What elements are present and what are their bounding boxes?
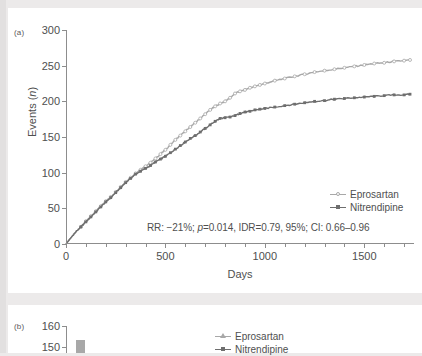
panel-b-label: (b) (14, 322, 24, 331)
x-tick-minor (86, 244, 87, 247)
y-tick-label: 160 (42, 320, 60, 332)
y-tick (62, 173, 66, 174)
panel-a-label: (a) (14, 28, 24, 37)
x-tick-major (265, 244, 266, 248)
y-tick (62, 326, 66, 327)
annotation-rr: RR: −21%; (147, 222, 195, 233)
x-tick-label: 1500 (352, 250, 376, 262)
x-tick-label: 500 (156, 250, 174, 262)
panel-a-y-axis-label: Events (n) (26, 87, 38, 137)
x-tick-minor (185, 244, 186, 247)
y-tick (62, 101, 66, 102)
panel-b-bar (76, 340, 85, 353)
y-tick (62, 66, 66, 67)
panel-a-legend: EprosartanNitrendipine (330, 188, 403, 214)
x-tick-minor (146, 244, 147, 247)
x-tick-label: 0 (63, 250, 69, 262)
panel-a-statistics-annotation: RR: −21%; p=0.014, IDR=0.79, 95%; CI: 0.… (147, 222, 369, 233)
y-tick-label: 50 (48, 202, 60, 214)
y-tick-label: 0 (54, 238, 60, 250)
x-tick-major (165, 244, 166, 248)
panel-b-y-axis (66, 326, 67, 353)
x-tick-minor (106, 244, 107, 247)
x-tick-major (364, 244, 365, 248)
x-tick-minor (285, 244, 286, 247)
legend-item-eprosartan: Eprosartan (330, 188, 403, 201)
annotation-values: =0.014, IDR=0.79, 95%; CI: 0.66–0.96 (203, 222, 370, 233)
panel-b-legend: EprosartanNitrendipine (215, 330, 288, 356)
x-tick-minor (404, 244, 405, 247)
x-tick-minor (245, 244, 246, 247)
legend-label: Nitrendipine (350, 202, 403, 213)
legend-item-nitrendipine: Nitrendipine (330, 201, 403, 214)
y-tick (62, 30, 66, 31)
legend-label: Eprosartan (350, 189, 399, 200)
y-tick-label: 250 (42, 60, 60, 72)
y-tick-label: 100 (42, 167, 60, 179)
y-tick-label: 150 (42, 131, 60, 143)
x-tick-minor (325, 244, 326, 247)
x-tick-major (66, 244, 67, 248)
x-tick-minor (344, 244, 345, 247)
square-filled-icon (330, 203, 346, 212)
x-tick-label: 1000 (253, 250, 277, 262)
panel-a-x-axis (66, 243, 414, 244)
circle-open-icon (330, 190, 346, 199)
x-tick-minor (384, 244, 385, 247)
legend-label: Nitrendipine (235, 344, 288, 355)
y-tick-label: 200 (42, 95, 60, 107)
legend-item-eprosartan: Eprosartan (215, 330, 288, 343)
y-tick (62, 208, 66, 209)
legend-label: Eprosartan (235, 331, 284, 342)
triangle-filled-icon (215, 332, 231, 341)
y-tick-label: 300 (42, 24, 60, 36)
x-tick-minor (225, 244, 226, 247)
y-tick (62, 347, 66, 348)
x-tick-minor (305, 244, 306, 247)
x-tick-minor (205, 244, 206, 247)
legend-item-nitrendipine: Nitrendipine (215, 343, 288, 356)
panel-a-y-axis (66, 30, 67, 244)
series-line-eprosartan (66, 60, 410, 244)
square-filled-icon (215, 345, 231, 354)
y-tick-label: 150 (42, 341, 60, 353)
panel-a-x-axis-label: Days (66, 268, 414, 280)
page-edge (0, 0, 6, 353)
x-tick-minor (126, 244, 127, 247)
y-tick (62, 137, 66, 138)
